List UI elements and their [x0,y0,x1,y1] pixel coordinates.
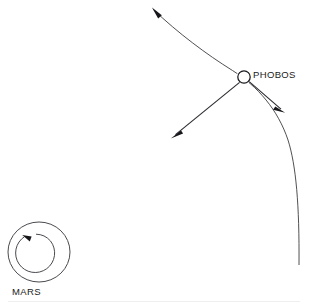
mars-rotation-arrow [16,234,55,272]
orbit-direction-arrow [152,8,162,19]
radial-arrow-toward-mars [171,82,240,138]
orbit-group [153,10,299,265]
phobos-body-circle [238,71,250,83]
phobos-label: PHOBOS [253,70,296,80]
mars-body-group [8,222,70,282]
orbit-diagram-svg [0,0,309,305]
phobos-orbit-arc [153,10,299,265]
mars-label: MARS [12,287,41,297]
tangential-velocity-arrow [249,82,285,113]
mars-body-circle [8,222,70,282]
figure-root: PHOBOS MARS [0,0,309,305]
